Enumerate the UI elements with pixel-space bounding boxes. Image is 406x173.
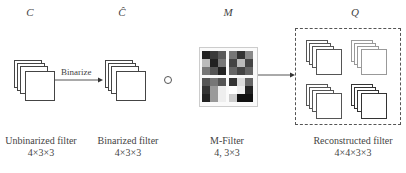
m-filter-cell (218, 86, 226, 94)
m-filter-cell (202, 51, 210, 59)
m-filter-cell (210, 67, 218, 75)
caption-mfilter: M-Filter 4, 3×3 (210, 135, 244, 159)
m-filter-cell (237, 94, 245, 102)
m-filter-block (229, 78, 253, 102)
m-filter-cell (229, 51, 237, 59)
caption-title: Unbinarized filter (5, 135, 76, 147)
m-filter-cell (237, 59, 245, 67)
caption-title: M-Filter (210, 135, 244, 147)
caption-dims: 4, 3×3 (210, 147, 244, 159)
m-filter-cell (218, 51, 226, 59)
reconstructed-filter-box (295, 28, 401, 125)
m-filter-cell (210, 94, 218, 102)
m-filter-grid (199, 47, 258, 107)
m-filter-cell (237, 78, 245, 86)
modulation-operator-icon (164, 76, 172, 84)
m-filter-cell (245, 86, 253, 94)
m-filter-cell (245, 51, 253, 59)
filter-sheet (361, 93, 387, 119)
m-filter-cell (229, 86, 237, 94)
m-filter-cell (237, 86, 245, 94)
m-filter-cell (202, 78, 210, 86)
caption-title: Binarized filter (98, 135, 159, 147)
caption-dims: 4×3×3 (98, 147, 159, 159)
m-filter-cell (245, 67, 253, 75)
caption-title: Reconstructed filter (313, 135, 392, 147)
caption-reconstructed: Reconstructed filter 4×4×3×3 (313, 135, 392, 159)
m-filter-cell (218, 67, 226, 75)
m-filter-cell (210, 51, 218, 59)
m-filter-cell (218, 59, 226, 67)
m-filter-cell (237, 51, 245, 59)
m-filter-cell (202, 94, 210, 102)
m-filter-cell (210, 86, 218, 94)
filter-sheet (316, 49, 342, 75)
binarize-label: Binarize (61, 67, 92, 77)
m-filter-cell (210, 78, 218, 86)
m-filter-cell (229, 78, 237, 86)
m-filter-cell (218, 94, 226, 102)
caption-dims: 4×4×3×3 (313, 147, 392, 159)
filter-sheet (116, 71, 146, 101)
filter-sheet (361, 49, 387, 75)
m-filter-cell (229, 67, 237, 75)
m-filter-cell (202, 86, 210, 94)
m-filter-cell (202, 67, 210, 75)
m-filter-block (202, 78, 226, 102)
m-filter-cell (245, 59, 253, 67)
filter-sheet (316, 93, 342, 119)
m-filter-block (202, 51, 226, 75)
caption-unbinarized: Unbinarized filter 4×3×3 (5, 135, 76, 159)
m-filter-cell (229, 94, 237, 102)
m-filter-cell (210, 59, 218, 67)
m-filter-cell (218, 78, 226, 86)
m-filter-cell (229, 59, 237, 67)
m-filter-cell (245, 78, 253, 86)
m-filter-cell (237, 67, 245, 75)
caption-binarized: Binarized filter 4×3×3 (98, 135, 159, 159)
m-filter-cell (245, 94, 253, 102)
m-filter-block (229, 51, 253, 75)
m-filter-cell (202, 59, 210, 67)
caption-dims: 4×3×3 (5, 147, 76, 159)
